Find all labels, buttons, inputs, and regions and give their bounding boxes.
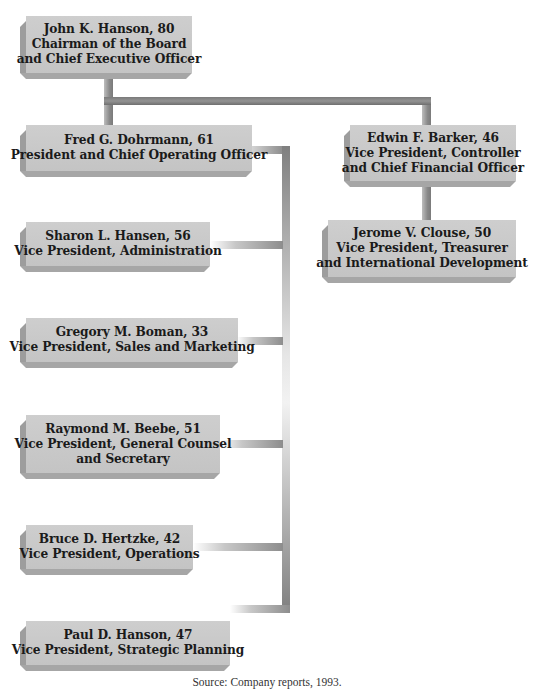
person-title: Vice President, Strategic Planning [12, 643, 244, 658]
person-title: and Chief Financial Officer [342, 161, 524, 176]
box-planning: Paul D. Hanson, 47 Vice President, Strat… [20, 621, 230, 671]
person-title: and International Development [316, 256, 527, 271]
person-name: Fred G. Dohrmann, 61 [64, 133, 214, 148]
person-name: John K. Hanson, 80 [44, 22, 175, 37]
person-title: President and Chief Operating Officer [11, 148, 268, 163]
bevel [344, 181, 516, 187]
connector-to-planning [230, 605, 290, 613]
person-title: Vice President, Controller [345, 146, 520, 161]
person-name: Sharon L. Hansen, 56 [45, 229, 190, 244]
connector-coo-spine [282, 146, 290, 613]
box-treasurer: Jerome V. Clouse, 50 Vice President, Tre… [322, 220, 516, 283]
bevel [20, 362, 238, 368]
person-title: Vice President, Sales and Marketing [9, 340, 254, 355]
person-name: Bruce D. Hertzke, 42 [39, 532, 181, 547]
person-name: Edwin F. Barker, 46 [367, 131, 499, 146]
bevel [20, 473, 220, 479]
connector-to-operations [193, 543, 283, 551]
box-counsel: Raymond M. Beebe, 51 Vice President, Gen… [20, 415, 220, 479]
connector-to-cfo [422, 105, 431, 125]
person-title: Vice President, Operations [19, 547, 199, 562]
org-chart: John K. Hanson, 80 Chairman of the Board… [0, 0, 534, 693]
person-name: Raymond M. Beebe, 51 [45, 422, 201, 437]
box-coo: Fred G. Dohrmann, 61 President and Chief… [20, 125, 252, 177]
person-title: and Chief Executive Officer [17, 52, 202, 67]
box-face: Fred G. Dohrmann, 61 President and Chief… [26, 125, 252, 171]
box-face: Raymond M. Beebe, 51 Vice President, Gen… [26, 415, 220, 473]
bevel [20, 266, 210, 272]
box-face: Paul D. Hanson, 47 Vice President, Strat… [26, 621, 230, 665]
person-title: Vice President, General Counsel [14, 437, 231, 452]
person-name: Gregory M. Boman, 33 [56, 325, 209, 340]
person-title: Chairman of the Board [32, 37, 187, 52]
connector-cfo-to-treasurer [422, 186, 431, 220]
box-cfo: Edwin F. Barker, 46 Vice President, Cont… [344, 125, 516, 187]
connector-ceo-horizontal [104, 97, 431, 105]
person-title: Vice President, Treasurer [336, 241, 507, 256]
box-operations: Bruce D. Hertzke, 42 Vice President, Ope… [20, 525, 193, 575]
bevel [20, 569, 193, 575]
person-title: and Secretary [76, 452, 169, 467]
connector-to-coo [104, 105, 113, 125]
box-admin: Sharon L. Hansen, 56 Vice President, Adm… [20, 222, 210, 272]
box-sales: Gregory M. Boman, 33 Vice President, Sal… [20, 318, 238, 368]
box-face: John K. Hanson, 80 Chairman of the Board… [26, 16, 192, 73]
bevel [322, 277, 516, 283]
person-name: Paul D. Hanson, 47 [64, 628, 193, 643]
box-face: Edwin F. Barker, 46 Vice President, Cont… [350, 125, 516, 181]
person-name: Jerome V. Clouse, 50 [353, 226, 491, 241]
bevel [20, 73, 192, 79]
box-face: Bruce D. Hertzke, 42 Vice President, Ope… [26, 525, 193, 569]
bevel [20, 171, 252, 177]
box-ceo: John K. Hanson, 80 Chairman of the Board… [20, 16, 192, 79]
box-face: Jerome V. Clouse, 50 Vice President, Tre… [328, 220, 516, 277]
box-face: Gregory M. Boman, 33 Vice President, Sal… [26, 318, 238, 362]
source-caption: Source: Company reports, 1993. [0, 676, 534, 688]
person-title: Vice President, Administration [14, 244, 221, 259]
bevel [20, 665, 230, 671]
box-face: Sharon L. Hansen, 56 Vice President, Adm… [26, 222, 210, 266]
